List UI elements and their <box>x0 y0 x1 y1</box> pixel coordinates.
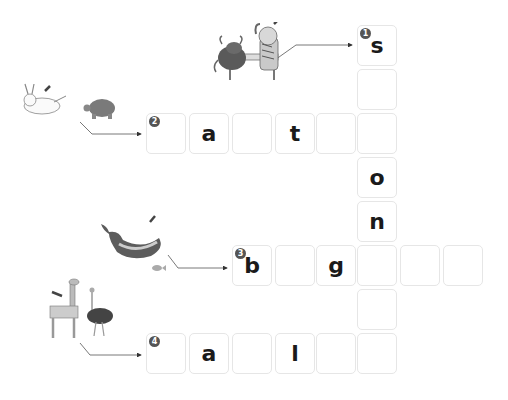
rabbit-turtle-picture <box>20 82 120 124</box>
giraffe-ostrich-picture <box>44 278 118 342</box>
whale-fish-picture <box>97 212 169 276</box>
giraffe-ostrich-icon <box>44 278 118 342</box>
whale-fish-icon <box>97 212 169 276</box>
rabbit-turtle-icon <box>20 82 120 124</box>
ox-tiger-icon <box>212 22 290 84</box>
ox-tiger-picture <box>212 22 290 84</box>
